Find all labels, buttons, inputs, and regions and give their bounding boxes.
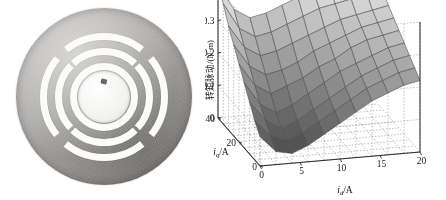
- z-tick-label: 0.3: [205, 16, 215, 26]
- y-tick-label: 40: [206, 114, 216, 124]
- surface-plot-svg: 00.10.20.30.40510152002040id/Aiq/A: [205, 0, 446, 200]
- y-tick-label: 0: [252, 162, 257, 172]
- x-tick-label: 10: [337, 163, 347, 173]
- y-axis-label: iq/A: [213, 147, 229, 158]
- x-tick-label: 0: [259, 170, 264, 180]
- svg-text:iq/A: iq/A: [213, 147, 229, 158]
- figure-container: 转矩脉动/(N·m) 00.10.20.30.40510152002040id/…: [0, 0, 446, 200]
- z-tick-label: 0.1: [205, 81, 215, 91]
- svg-text:id/A: id/A: [337, 185, 353, 196]
- x-tick-label: 20: [417, 156, 427, 166]
- x-axis-label: id/A: [337, 185, 353, 196]
- torque-ripple-surface-plot: 转矩脉动/(N·m) 00.10.20.30.40510152002040id/…: [205, 0, 446, 200]
- key-notch: [100, 78, 107, 84]
- rotor-disc: [16, 8, 192, 185]
- z-tick-label: 0.2: [205, 48, 215, 58]
- rotor-lamination-photo: [0, 0, 205, 200]
- x-tick-label: 5: [299, 166, 304, 176]
- surface-mesh: [218, 0, 420, 153]
- x-tick-label: 15: [377, 159, 387, 169]
